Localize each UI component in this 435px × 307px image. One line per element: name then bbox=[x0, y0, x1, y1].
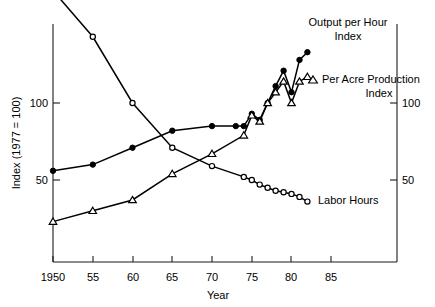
data-point bbox=[209, 123, 214, 128]
series-label-output-per-hour-line1: Output per Hour bbox=[309, 16, 388, 28]
data-point bbox=[265, 185, 270, 190]
left-tick-label-100: 100 bbox=[30, 97, 48, 109]
data-point bbox=[50, 168, 55, 173]
series-label-per-acre-line1: Per Acre Production bbox=[322, 73, 420, 85]
data-point bbox=[209, 164, 214, 169]
data-point bbox=[281, 190, 286, 195]
data-point bbox=[241, 174, 246, 179]
data-point bbox=[297, 194, 302, 199]
data-point bbox=[289, 191, 294, 196]
x-tick-label-1955: 55 bbox=[87, 271, 99, 283]
data-point bbox=[170, 128, 175, 133]
x-tick-label-1960: 60 bbox=[127, 271, 139, 283]
x-tick-label-1985: 85 bbox=[325, 271, 337, 283]
x-tick-label-1970: 70 bbox=[206, 271, 218, 283]
chart-background bbox=[0, 0, 435, 307]
data-point bbox=[90, 162, 95, 167]
y-axis-title: Index (1977 = 100) bbox=[10, 97, 22, 190]
data-point bbox=[289, 90, 294, 95]
data-point bbox=[257, 182, 262, 187]
x-tick-label-1980: 80 bbox=[285, 271, 297, 283]
chart-container: 100 50 100 50 1950 55 60 65 70 75 80 bbox=[0, 0, 435, 307]
x-tick-label-1975: 75 bbox=[246, 271, 258, 283]
left-tick-label-50: 50 bbox=[36, 174, 48, 186]
data-point bbox=[130, 100, 135, 105]
data-point bbox=[305, 199, 310, 204]
data-point bbox=[90, 34, 95, 39]
line-chart-figure: 100 50 100 50 1950 55 60 65 70 75 80 bbox=[0, 0, 435, 307]
series-label-labor-hours: Labor Hours bbox=[318, 194, 379, 206]
data-point bbox=[233, 123, 238, 128]
right-tick-label-100: 100 bbox=[402, 97, 420, 109]
x-tick-label-1965: 65 bbox=[166, 271, 178, 283]
right-tick-label-50: 50 bbox=[402, 174, 414, 186]
x-tick-label-1950: 1950 bbox=[41, 271, 65, 283]
data-point bbox=[281, 68, 286, 73]
data-point bbox=[241, 123, 246, 128]
data-point bbox=[297, 57, 302, 62]
data-point bbox=[305, 50, 310, 55]
data-point bbox=[170, 145, 175, 150]
series-label-output-per-hour-line2: Index bbox=[335, 30, 362, 42]
x-axis-title: Year bbox=[207, 289, 230, 301]
data-point bbox=[273, 188, 278, 193]
series-label-per-acre-line2: Index bbox=[366, 87, 393, 99]
data-point bbox=[249, 177, 254, 182]
data-point bbox=[130, 145, 135, 150]
